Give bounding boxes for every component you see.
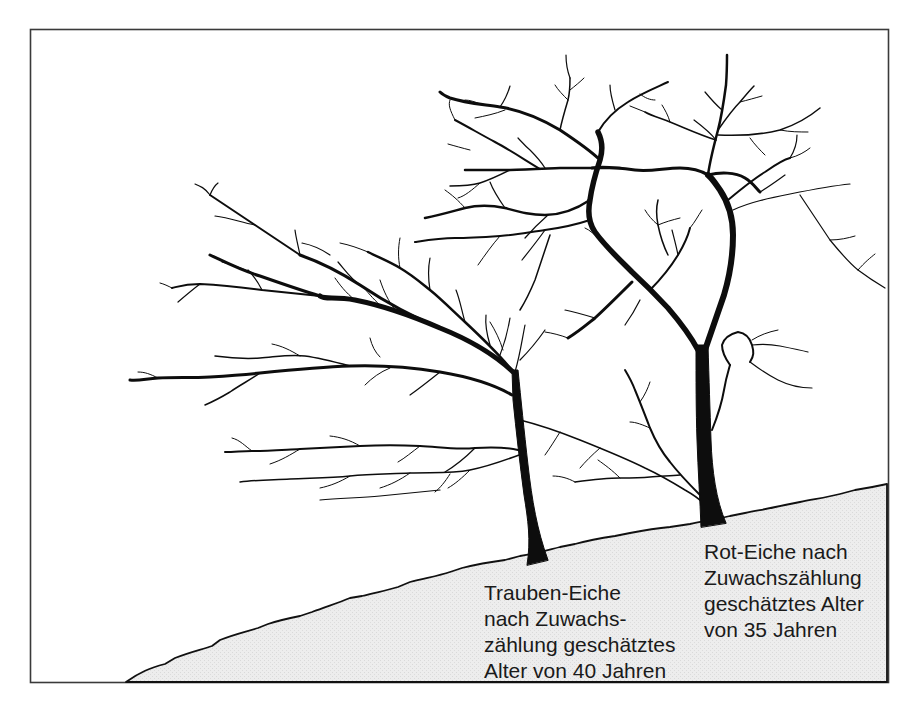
trauben-eiche-label-line-1: Trauben-Eiche <box>484 580 675 606</box>
rot-eiche-label-line-2: Zuwachszählung <box>704 565 864 591</box>
trauben-eiche-label-line-4: Alter von 40 Jahren <box>484 658 675 684</box>
trauben-eiche-label-line-2: nach Zuwachs- <box>484 606 675 632</box>
trauben-eiche-label: Trauben-Eiche nach Zuwachs- zählung gesc… <box>484 580 675 684</box>
rot-eiche-label-line-4: von 35 Jahren <box>704 617 864 643</box>
rot-eiche-label-line-1: Rot-Eiche nach <box>704 539 864 565</box>
rot-eiche-label: Rot-Eiche nach Zuwachszählung geschätzte… <box>704 539 864 643</box>
trauben-eiche-label-line-3: zählung geschätztes <box>484 632 675 658</box>
rot-eiche-label-line-3: geschätztes Alter <box>704 591 864 617</box>
